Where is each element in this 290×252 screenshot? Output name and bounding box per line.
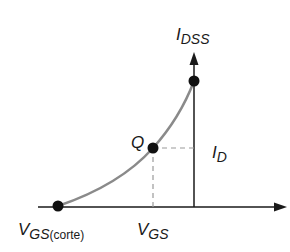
id-axis-arrow-icon <box>190 52 199 65</box>
transfer-curve <box>58 81 194 206</box>
vgs-label: VGS <box>137 220 169 242</box>
cutoff-point <box>53 201 64 212</box>
q-point <box>148 143 159 154</box>
id-label: ID <box>212 143 227 165</box>
idss-label: IDSS <box>176 25 210 47</box>
transconductance-diagram: IDSS ID Q VGS VGS(corte) <box>0 0 290 252</box>
vgs-axis-arrow-icon <box>274 203 287 212</box>
idss-point <box>189 76 200 87</box>
vgs-cutoff-label: VGS(corte) <box>18 220 84 242</box>
q-label: Q <box>131 133 144 152</box>
